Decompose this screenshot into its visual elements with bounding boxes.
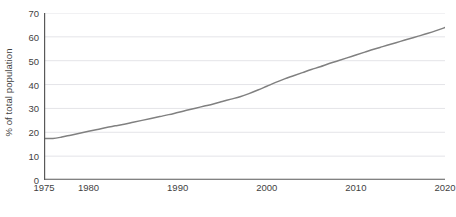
y-tick-label-60: 60: [28, 31, 39, 42]
y-axis-title-text: % of total population: [3, 48, 14, 136]
figure-caption-partial: [8, 209, 308, 217]
y-tick-label-30: 30: [28, 103, 39, 114]
y-axis-tick-labels: 010203040506070: [16, 0, 42, 185]
data-line-urban-population: [44, 28, 445, 139]
x-axis-tick-labels: 197519801990200020102020: [44, 182, 445, 200]
x-tick-label-2020: 2020: [434, 182, 455, 193]
y-tick-label-70: 70: [28, 8, 39, 19]
x-tick-label-2000: 2000: [256, 182, 277, 193]
x-tick-label-1990: 1990: [167, 182, 188, 193]
x-tick-label-1975: 1975: [33, 182, 54, 193]
x-tick-label-1980: 1980: [78, 182, 99, 193]
y-tick-label-40: 40: [28, 79, 39, 90]
y-tick-label-10: 10: [28, 151, 39, 162]
y-axis-title: % of total population: [0, 0, 16, 185]
x-tick-label-2010: 2010: [345, 182, 366, 193]
y-tick-label-50: 50: [28, 55, 39, 66]
y-tick-label-20: 20: [28, 127, 39, 138]
plot-area: [44, 13, 445, 180]
line-chart-svg: [44, 13, 445, 180]
gridlines: [44, 13, 445, 156]
